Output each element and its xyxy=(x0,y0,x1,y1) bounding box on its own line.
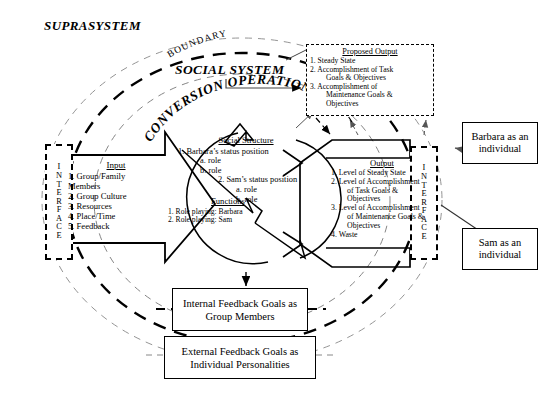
list-item: 2. Sam’s status position xyxy=(178,175,314,185)
proposed-output-title: Proposed Output xyxy=(310,47,430,56)
barbara-individual-box: Barbara as an individual xyxy=(462,122,538,164)
list-item: 3. Accomplishment ofMaintenance Goals &O… xyxy=(310,83,430,109)
feedback-arrow-proposed-d xyxy=(286,49,308,60)
external-feedback-box: External Feedback Goals as Individual Pe… xyxy=(164,336,316,379)
social-system-label: SOCIAL SYSTEM xyxy=(175,62,284,78)
social-structure-block: Social Structure 1. Barbara’s status pos… xyxy=(178,136,314,204)
list-item: a. role xyxy=(178,156,314,166)
diagram-canvas: BOUNDARY CONVERSION OPERATIONS xyxy=(0,0,555,414)
functions-title: Functions xyxy=(168,196,288,207)
list-item: 2. Level of Accomplishmentof Task Goals … xyxy=(331,178,433,204)
internal-feedback-box: Internal Feedback Goals as Group Members xyxy=(172,288,308,331)
social-structure-title: Social Structure xyxy=(178,136,314,146)
proposed-output-box: Proposed Output 1. Steady State2. Accomp… xyxy=(306,44,434,116)
sam-individual-box: Sam as an individual xyxy=(462,228,538,270)
input-title: Input xyxy=(68,160,164,170)
output-return-dashed-arrow xyxy=(316,118,330,134)
list-item: 1. Group/Family xyxy=(68,171,164,181)
output-title: Output xyxy=(331,158,433,168)
functions-list: 1. Role playing: Barbara2. Role playing:… xyxy=(168,208,288,225)
list-item: Members xyxy=(68,181,164,191)
list-item: 2. Role playing: Sam xyxy=(168,216,288,225)
list-item: 1. Barbara’s status position xyxy=(178,147,314,157)
feedback-arrow-proposed-b xyxy=(350,120,358,135)
proposed-output-list: 1. Steady State2. Accomplishment of Task… xyxy=(310,57,430,109)
list-item: 5. Feedback xyxy=(68,221,164,231)
list-item: 2. Group Culture xyxy=(68,191,164,201)
list-item: 2. Accomplishment of TaskGoals & Objecti… xyxy=(310,66,430,83)
functions-block: Functions 1. Role playing: Barbara2. Rol… xyxy=(168,196,288,225)
output-list: 1. Level of Steady State2. Level of Acco… xyxy=(331,169,433,239)
input-list: 1. Group/FamilyMembers2. Group Culture3.… xyxy=(68,171,164,231)
list-item: 4. Place/Time xyxy=(68,211,164,221)
list-item: 3. Resources xyxy=(68,201,164,211)
feedback-arrow-proposed-c xyxy=(424,120,426,135)
list-item: b. role xyxy=(178,166,314,176)
output-block: Output 1. Level of Steady State2. Level … xyxy=(331,158,433,239)
interface-left-letters: INTERFACE xyxy=(56,163,62,240)
interface-letter: E xyxy=(56,232,62,241)
list-item: 3. Level of Accomplishmentof Maintenance… xyxy=(331,204,433,230)
input-block: Input 1. Group/FamilyMembers2. Group Cul… xyxy=(68,160,164,231)
list-item: 4. Waste xyxy=(331,231,433,240)
list-item: a. role xyxy=(178,185,314,195)
suprasystem-label: SUPRASYSTEM xyxy=(44,18,141,34)
